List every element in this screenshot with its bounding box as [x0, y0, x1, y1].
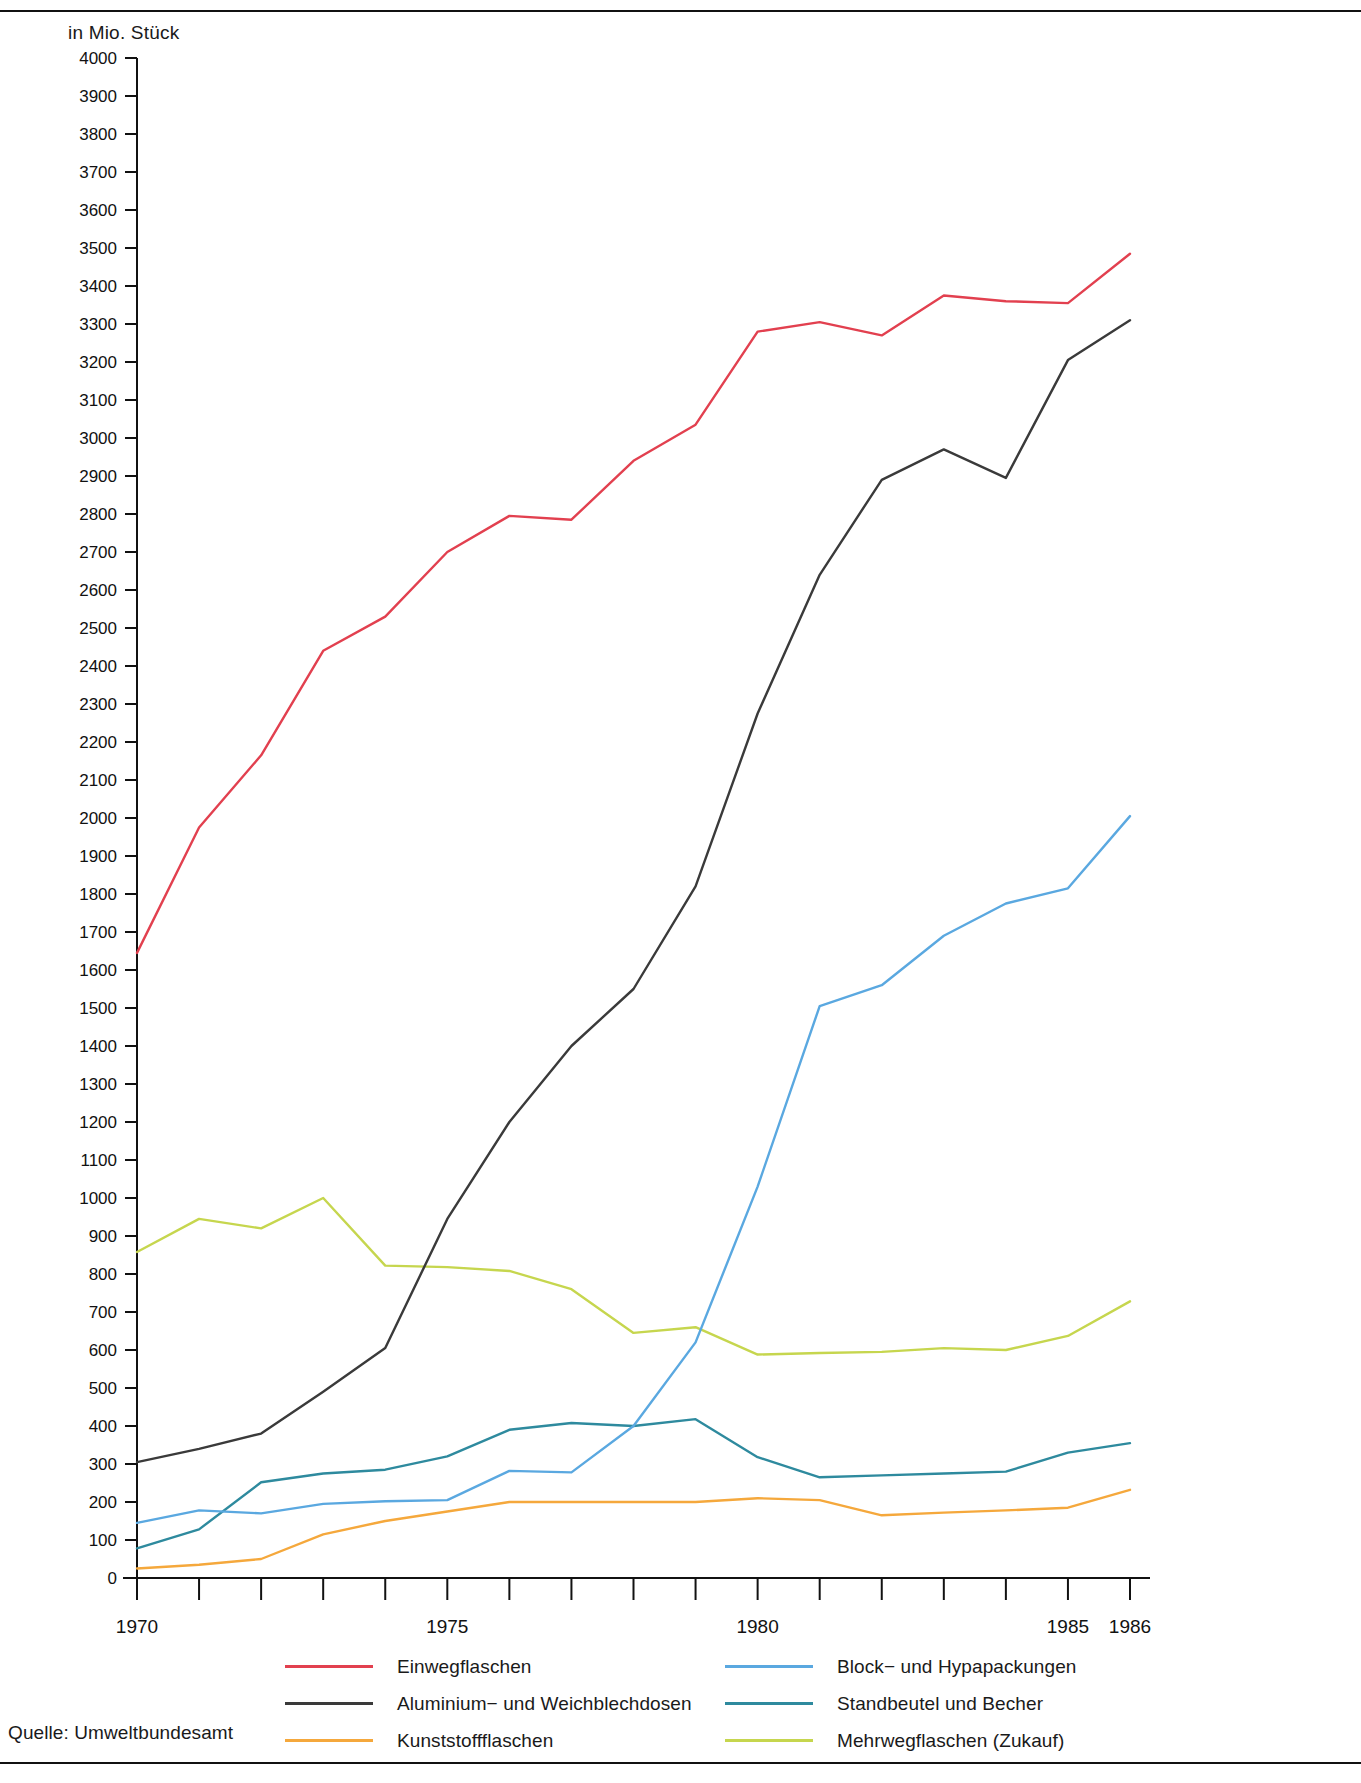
series-line-standbeutel-und-becher: [137, 1419, 1130, 1548]
y-axis-tick-label: 100: [89, 1531, 117, 1550]
y-axis-tick-label: 2500: [79, 619, 117, 638]
y-axis-tick-label: 200: [89, 1493, 117, 1512]
y-axis-tick-label: 800: [89, 1265, 117, 1284]
y-axis-tick-label: 1600: [79, 961, 117, 980]
legend-swatch-mehrwegflaschen-zukauf: [725, 1739, 813, 1742]
y-axis-tick-label: 3800: [79, 125, 117, 144]
y-axis-tick-label: 3300: [79, 315, 117, 334]
legend-label-block-hypapackungen: Block− und Hypapackungen: [837, 1656, 1077, 1678]
legend-label-kunststoffflaschen: Kunststoffflaschen: [397, 1730, 553, 1752]
y-axis-tick-label: 2300: [79, 695, 117, 714]
y-axis-tick-label: 3400: [79, 277, 117, 296]
y-axis-tick-label: 2100: [79, 771, 117, 790]
x-axis-tick-label: 1985: [1047, 1616, 1089, 1637]
line-chart: 0100200300400500600700800900100011001200…: [0, 0, 1361, 1640]
plot-svg: 0100200300400500600700800900100011001200…: [0, 0, 1361, 1640]
y-axis-tick-label: 300: [89, 1455, 117, 1474]
y-axis-tick-label: 500: [89, 1379, 117, 1398]
legend-item-kunststoffflaschen[interactable]: Kunststoffflaschen: [285, 1722, 692, 1759]
legend-swatch-block-hypapackungen: [725, 1665, 813, 1668]
y-axis-tick-label: 1700: [79, 923, 117, 942]
legend-column-left: Einwegflaschen Aluminium− und Weichblech…: [285, 1648, 692, 1759]
series-line-mehrwegflaschen-zukauf: [137, 1198, 1130, 1355]
legend-label-standbeutel-becher: Standbeutel und Becher: [837, 1693, 1043, 1715]
y-axis-tick-label: 1100: [80, 1151, 117, 1170]
x-axis-tick-label: 1975: [426, 1616, 468, 1637]
y-axis-tick-label: 3900: [79, 87, 117, 106]
legend-column-right: Block− und Hypapackungen Standbeutel und…: [725, 1648, 1077, 1759]
y-axis-tick-label: 3100: [79, 391, 117, 410]
y-axis-tick-label: 2000: [79, 809, 117, 828]
y-axis-tick-label: 2600: [79, 581, 117, 600]
y-axis-tick-label: 0: [108, 1569, 117, 1588]
source-note: Quelle: Umweltbundesamt: [8, 1722, 233, 1744]
legend-item-mehrwegflaschen-zukauf[interactable]: Mehrwegflaschen (Zukauf): [725, 1722, 1077, 1759]
y-axis-tick-label: 2400: [79, 657, 117, 676]
legend-label-aluminium-weichblechdosen: Aluminium− und Weichblechdosen: [397, 1693, 692, 1715]
x-axis-tick-label: 1986: [1109, 1616, 1151, 1637]
y-axis-tick-label: 400: [89, 1417, 117, 1436]
legend-label-einwegflaschen: Einwegflaschen: [397, 1656, 531, 1678]
legend-swatch-standbeutel-becher: [725, 1702, 813, 1705]
series-line-kunststoffflaschen: [137, 1490, 1130, 1569]
legend-item-standbeutel-becher[interactable]: Standbeutel und Becher: [725, 1685, 1077, 1722]
y-axis-tick-label: 900: [89, 1227, 117, 1246]
legend-item-aluminium-weichblechdosen[interactable]: Aluminium− und Weichblechdosen: [285, 1685, 692, 1722]
y-axis-tick-label: 2800: [79, 505, 117, 524]
legend-swatch-einwegflaschen: [285, 1665, 373, 1668]
y-axis-tick-label: 1900: [79, 847, 117, 866]
y-axis-tick-label: 1400: [79, 1037, 117, 1056]
y-axis-tick-label: 3600: [79, 201, 117, 220]
bottom-rule: [0, 1762, 1361, 1764]
y-axis-tick-label: 3700: [79, 163, 117, 182]
legend-swatch-aluminium-weichblechdosen: [285, 1702, 373, 1705]
y-axis-tick-label: 1000: [79, 1189, 117, 1208]
y-axis-tick-label: 3500: [79, 239, 117, 258]
legend-item-block-hypapackungen[interactable]: Block− und Hypapackungen: [725, 1648, 1077, 1685]
legend-label-mehrwegflaschen-zukauf: Mehrwegflaschen (Zukauf): [837, 1730, 1064, 1752]
y-axis-tick-label: 600: [89, 1341, 117, 1360]
series-line-einwegflaschen: [137, 254, 1130, 953]
y-axis-tick-label: 3200: [79, 353, 117, 372]
y-axis-tick-label: 2900: [79, 467, 117, 486]
y-axis-tick-label: 700: [89, 1303, 117, 1322]
x-axis-tick-label: 1970: [116, 1616, 158, 1637]
legend-swatch-kunststoffflaschen: [285, 1739, 373, 1742]
y-axis-tick-label: 1200: [79, 1113, 117, 1132]
legend-item-einwegflaschen[interactable]: Einwegflaschen: [285, 1648, 692, 1685]
y-axis-tick-label: 1500: [79, 999, 117, 1018]
y-axis-tick-label: 1300: [79, 1075, 117, 1094]
y-axis-tick-label: 3000: [79, 429, 117, 448]
series-line-aluminium-und-weichblechdosen: [137, 320, 1130, 1462]
y-axis-tick-label: 2700: [79, 543, 117, 562]
y-axis-tick-label: 2200: [79, 733, 117, 752]
chart-page: in Mio. Stück 01002003004005006007008009…: [0, 0, 1361, 1783]
y-axis-tick-label: 4000: [79, 49, 117, 68]
x-axis-tick-label: 1980: [736, 1616, 778, 1637]
y-axis-tick-label: 1800: [79, 885, 117, 904]
